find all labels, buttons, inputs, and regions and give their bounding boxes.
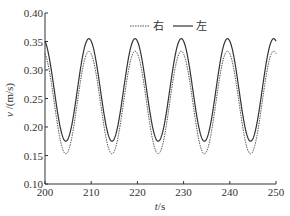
y-axis-label: v /(m/s)	[3, 83, 16, 117]
y-ticks: 0.100.150.200.250.300.350.40	[24, 7, 48, 190]
plot-series-group	[45, 39, 276, 154]
y-tick-label: 0.20	[24, 121, 44, 133]
y-tick-label: 0.30	[24, 64, 44, 76]
x-tick-label: 240	[222, 186, 239, 198]
x-tick-label: 210	[83, 186, 100, 198]
x-tick-label: 230	[175, 186, 192, 198]
legend: 右 左	[130, 19, 207, 33]
line-chart: 0.100.150.200.250.300.350.40 20021022023…	[0, 0, 290, 216]
x-tick-label: 250	[268, 186, 285, 198]
y-tick-label: 0.40	[24, 7, 44, 19]
y-tick-label: 0.15	[24, 150, 44, 162]
series-left-line	[45, 39, 276, 142]
x-tick-label: 220	[129, 186, 146, 198]
x-axis-label: t/s	[155, 200, 165, 212]
y-tick-label: 0.35	[24, 36, 44, 48]
legend-label-right: 右	[153, 19, 164, 33]
y-tick-label: 0.25	[24, 93, 44, 105]
x-tick-label: 200	[37, 186, 54, 198]
legend-label-left: 左	[196, 20, 207, 33]
axes-group	[45, 13, 276, 184]
